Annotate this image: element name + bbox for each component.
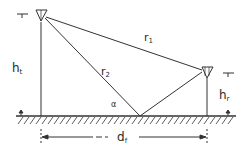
- label-df: df: [117, 130, 128, 145]
- label-ht: ht: [12, 61, 23, 76]
- label-r2: r2: [101, 65, 110, 79]
- reflected-ray-r2: [45, 18, 202, 116]
- transmitter-antenna-icon: [36, 10, 47, 116]
- ground-plane: [16, 116, 236, 124]
- receiver-antenna-icon: [202, 67, 213, 116]
- label-r1: r1: [144, 31, 153, 45]
- label-alpha: α: [111, 100, 116, 109]
- label-hr: hr: [219, 88, 230, 103]
- two-ray-diagram: r1 r2 ht hr α df: [0, 0, 247, 152]
